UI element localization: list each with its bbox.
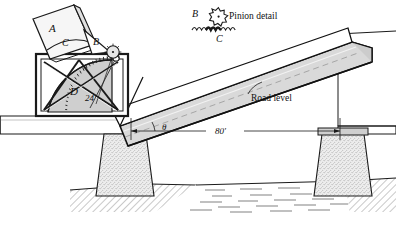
right-pier-body [314, 134, 372, 196]
label-pinion-detail-title: Pinion detail [229, 11, 278, 21]
detail-rack-strip [192, 28, 235, 31]
pinion-hub [112, 51, 114, 53]
label-rack-C: C [62, 37, 69, 48]
label-detail-pinion-B: B [192, 8, 198, 19]
left-pier-body [96, 134, 154, 196]
left-pier [96, 134, 154, 196]
left-road-slab [0, 116, 128, 134]
label-sector-radius: 24' [85, 93, 97, 103]
bascule-bridge-diagram: A C B D 24' 80' θ Road level Pinion deta… [0, 0, 396, 227]
label-span-80ft: 80' [215, 126, 227, 136]
label-counterweight-A: A [48, 22, 56, 34]
diagram-canvas: A C B D 24' 80' θ Road level Pinion deta… [0, 0, 396, 227]
detail-rack-mesh-highlight [206, 28, 220, 31]
label-detail-rack-C: C [216, 33, 223, 44]
label-pinion-B: B [93, 36, 99, 47]
label-angle-theta: θ [162, 122, 167, 132]
detail-pinion-hub [218, 16, 220, 18]
left-approach-roadway [0, 116, 128, 134]
label-sector-D: D [69, 85, 78, 97]
deck-road-surface-line [124, 47, 356, 131]
right-pier-cap [318, 128, 368, 135]
label-road-level: Road level [251, 93, 292, 103]
detail-pinion-gear [209, 8, 227, 26]
right-pier [314, 128, 372, 196]
counterweight-face [33, 5, 92, 59]
